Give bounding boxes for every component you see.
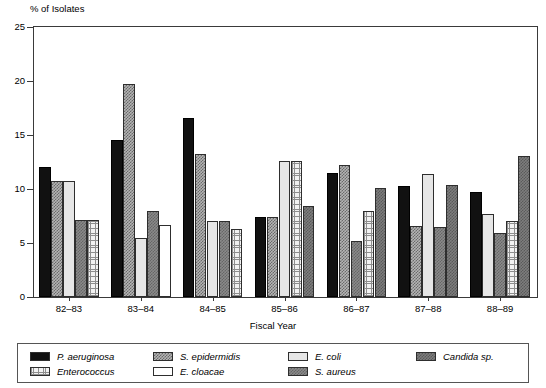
x-tick-label: 82–83 — [56, 303, 82, 314]
y-tick-mark — [27, 189, 33, 190]
bar — [75, 220, 87, 297]
bar-group — [111, 27, 171, 297]
bar — [231, 229, 243, 297]
legend-label: Candida sp. — [443, 351, 494, 362]
y-tick-label: 20 — [14, 75, 25, 86]
bar — [111, 140, 123, 297]
y-tick-label: 5 — [20, 237, 25, 248]
bar — [506, 221, 518, 297]
x-tick-label: 83–84 — [128, 303, 154, 314]
y-tick-mark — [27, 297, 33, 298]
bar — [183, 118, 195, 297]
legend: P. aeruginosaEnterococcusS. epidermidisE… — [17, 343, 529, 383]
y-tick-label: 25 — [14, 21, 25, 32]
legend-label: S. aureus — [315, 366, 356, 377]
legend-swatch-icon — [288, 352, 308, 361]
bar — [135, 238, 147, 297]
bar — [518, 156, 530, 297]
x-tick-label: 86–87 — [343, 303, 369, 314]
y-tick-label: 10 — [14, 183, 25, 194]
bar-group — [398, 27, 458, 297]
x-tick-mark — [141, 297, 142, 301]
bar-group — [470, 27, 530, 297]
bar — [39, 167, 51, 297]
x-tick-mark — [69, 297, 70, 301]
bar — [446, 185, 458, 297]
bar-chart: % of Isolates 0510152025 82–8383–8484–85… — [0, 0, 546, 388]
bar — [363, 211, 375, 297]
legend-swatch-icon — [30, 367, 50, 376]
bar — [494, 233, 506, 297]
bar — [267, 217, 279, 297]
bar — [195, 154, 207, 297]
bar — [219, 221, 231, 297]
bar — [482, 214, 494, 297]
x-tick-mark — [356, 297, 357, 301]
bar — [351, 241, 363, 297]
bar-group — [39, 27, 99, 297]
legend-swatch-icon — [416, 352, 436, 361]
x-tick-mark — [428, 297, 429, 301]
legend-label: Enterococcus — [57, 366, 115, 377]
x-tick-label: 87–88 — [415, 303, 441, 314]
y-tick: 0 — [0, 297, 33, 298]
legend-item: Candida sp. — [416, 351, 494, 362]
bar-group — [255, 27, 315, 297]
y-tick: 25 — [0, 27, 33, 28]
x-tick-label: 88–89 — [487, 303, 513, 314]
legend-label: S. epidermidis — [180, 351, 240, 362]
legend-swatch-icon — [288, 367, 308, 376]
bar-group — [327, 27, 387, 297]
bar — [87, 220, 99, 297]
legend-swatch-icon — [30, 352, 50, 361]
y-tick: 5 — [0, 243, 33, 244]
legend-item: Enterococcus — [30, 366, 115, 377]
legend-item: S. aureus — [288, 366, 356, 377]
y-axis-title: % of Isolates — [30, 3, 84, 14]
bar — [375, 188, 387, 297]
bar — [327, 173, 339, 297]
y-tick-mark — [27, 27, 33, 28]
y-tick-mark — [27, 81, 33, 82]
legend-swatch-icon — [153, 352, 173, 361]
bar — [51, 181, 63, 297]
bar — [207, 221, 219, 297]
y-tick-mark — [27, 243, 33, 244]
bar — [255, 217, 267, 297]
bar — [434, 227, 446, 297]
bar — [339, 165, 351, 297]
bar — [147, 211, 159, 297]
bar — [470, 192, 482, 297]
y-tick-mark — [27, 135, 33, 136]
legend-label: E. coli — [315, 351, 341, 362]
y-tick: 20 — [0, 81, 33, 82]
legend-swatch-icon — [153, 367, 173, 376]
bar — [422, 174, 434, 297]
x-tick-mark — [213, 297, 214, 301]
bar — [159, 225, 171, 297]
x-tick-label: 84–85 — [199, 303, 225, 314]
legend-item: E. coli — [288, 351, 341, 362]
x-axis-title: Fiscal Year — [0, 320, 546, 331]
bar-group — [183, 27, 243, 297]
bar — [123, 84, 135, 297]
x-tick-mark — [285, 297, 286, 301]
bar — [410, 226, 422, 297]
y-tick: 10 — [0, 189, 33, 190]
bar — [63, 181, 75, 297]
bar — [291, 161, 303, 297]
legend-item: S. epidermidis — [153, 351, 240, 362]
x-tick-mark — [500, 297, 501, 301]
legend-item: E. cloacae — [153, 366, 224, 377]
y-tick-label: 15 — [14, 129, 25, 140]
y-tick-label: 0 — [20, 291, 25, 302]
legend-label: P. aeruginosa — [57, 351, 114, 362]
x-tick-label: 85–86 — [271, 303, 297, 314]
plot-area — [34, 27, 537, 297]
bar — [279, 161, 291, 297]
bar — [398, 186, 410, 297]
legend-item: P. aeruginosa — [30, 351, 114, 362]
legend-label: E. cloacae — [180, 366, 224, 377]
bar — [303, 206, 315, 297]
y-tick: 15 — [0, 135, 33, 136]
